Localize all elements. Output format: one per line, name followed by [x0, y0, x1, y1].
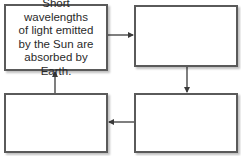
box-top-right: [134, 5, 238, 67]
box-top-left: Short wavelengths of light emitted by th…: [4, 4, 108, 71]
box-bottom-right-text: [136, 95, 236, 151]
box-bottom-left-text: [6, 95, 106, 151]
box-bottom-left: [4, 93, 108, 153]
box-top-right-text: [136, 7, 236, 65]
box-bottom-right: [134, 93, 238, 153]
box-top-left-text: Short wavelengths of light emitted by th…: [6, 6, 106, 69]
